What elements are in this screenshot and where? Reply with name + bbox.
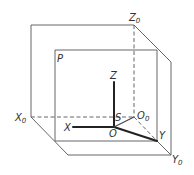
svg-text:X0: X0 <box>14 112 27 125</box>
label-y: Y <box>159 130 166 141</box>
outer-box <box>31 25 171 155</box>
svg-text:Y0: Y0 <box>172 154 183 167</box>
bottom-left-diagonal <box>31 117 68 155</box>
hidden-edges <box>31 25 157 141</box>
label-z: Z <box>109 70 118 81</box>
svg-text:O0: O0 <box>137 110 150 123</box>
label-o0: O <box>137 110 145 121</box>
projection-box-diagram: Z0 P Z X0 X S O0 O Y Y0 <box>0 0 194 175</box>
svg-text:Z0: Z0 <box>128 12 141 25</box>
labels: Z0 P Z X0 X S O0 O Y Y0 <box>14 12 183 167</box>
label-p: P <box>57 53 64 64</box>
label-x: X <box>63 122 72 133</box>
y-axis <box>114 127 157 141</box>
top-right-diagonal <box>134 25 171 62</box>
plane-bottom-extension <box>157 141 171 155</box>
label-o: O <box>109 128 117 139</box>
label-s: S <box>115 112 122 123</box>
